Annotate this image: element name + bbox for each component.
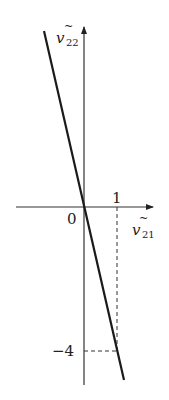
- y-axis-label: ~ v 22: [56, 20, 79, 48]
- diagram-canvas: ~ v 22 ~ v 21 0 1 −4: [0, 0, 169, 400]
- x-axis-label: ~ v 21: [132, 212, 155, 240]
- svg-text:21: 21: [142, 229, 155, 240]
- svg-text:v: v: [56, 29, 65, 47]
- x-tick-label: 1: [112, 189, 122, 207]
- origin-label: 0: [67, 210, 77, 228]
- svg-text:22: 22: [66, 37, 79, 48]
- svg-text:v: v: [132, 221, 141, 239]
- y-tick-label: −4: [52, 342, 74, 360]
- svg-text:~: ~: [64, 20, 73, 33]
